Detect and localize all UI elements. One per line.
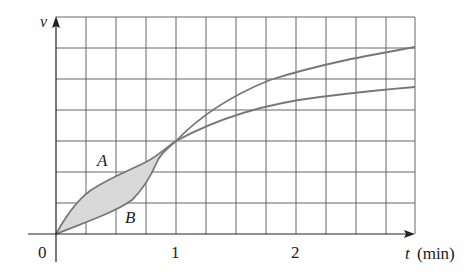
x-tick-0: 0 [38,243,47,262]
x-tick-2: 2 [291,243,300,262]
curve-label-a: A [96,151,108,170]
x-tick-1: 1 [171,243,180,262]
chart: v 0 1 2 t (min) A B [0,0,475,275]
curve-label-b: B [125,208,136,227]
y-axis-label: v [40,13,48,30]
x-axis-unit: (min) [417,244,455,263]
x-axis-label: t [405,244,411,263]
